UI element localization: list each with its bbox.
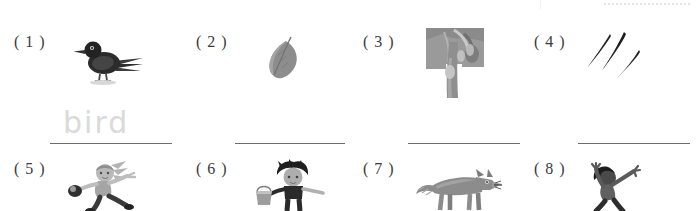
tree-photo: [424, 28, 490, 100]
item-number-6: ( 6 ): [196, 160, 228, 178]
grass-blades-illustration: [584, 32, 646, 86]
item-number-1: ( 1 ): [14, 33, 46, 51]
bird-illustration: [73, 31, 145, 86]
girl-catching-ball-illustration: [66, 161, 144, 211]
item-number-8: ( 8 ): [534, 160, 566, 178]
leaf-illustration: [258, 36, 308, 86]
answer-line-1[interactable]: [50, 143, 172, 144]
answer-line-2[interactable]: [235, 143, 345, 144]
item-number-5: ( 5 ): [14, 160, 46, 178]
worksheet-page: ( 1 ) bird ( 2 ): [0, 0, 699, 211]
item-number-4: ( 4 ): [534, 33, 566, 51]
faint-vertical-rule-icon: [540, 0, 541, 9]
answer-line-4[interactable]: [578, 143, 690, 144]
jumping-person-illustration: [582, 164, 654, 211]
answer-line-3[interactable]: [408, 143, 520, 144]
answer-word-1[interactable]: bird: [63, 108, 129, 138]
item-number-3: ( 3 ): [363, 33, 395, 51]
boy-with-bucket-illustration: [252, 161, 330, 211]
wolf-illustration: [416, 166, 502, 211]
dotted-rule-icon: [604, 3, 690, 7]
item-number-7: ( 7 ): [363, 160, 395, 178]
item-number-2: ( 2 ): [196, 33, 228, 51]
